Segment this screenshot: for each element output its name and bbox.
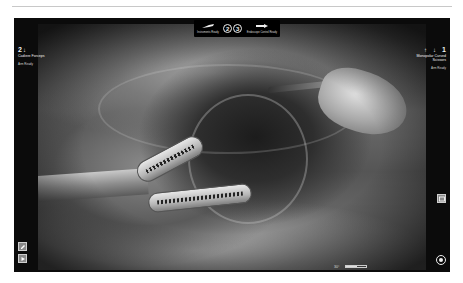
left-arm-number: 2	[18, 46, 22, 53]
instrument-icon	[201, 23, 215, 30]
right-arm-arrow: ↓	[433, 47, 436, 53]
left-arm-number-row: 2 ↓	[18, 46, 48, 53]
instruments-status[interactable]: Instruments Ready	[197, 23, 219, 34]
arm-indicator-3[interactable]: 3	[233, 24, 242, 33]
arrow-up-icon: ↑	[424, 47, 427, 53]
right-arm-number-row: ↑ ↓ 1	[412, 46, 446, 53]
energy-level-bar	[345, 265, 367, 268]
camera-button[interactable]	[436, 255, 446, 265]
left-instrument-name: Cadiere Forceps	[18, 54, 48, 58]
left-arm-status: Arm Ready	[18, 62, 48, 66]
console-display: Instruments Ready 2 3 Endoscope Control …	[14, 18, 450, 272]
endoscope-status[interactable]: Endoscope Control Ready	[247, 23, 277, 34]
annotate-button[interactable]	[18, 242, 27, 251]
camera-view-icon	[439, 196, 445, 202]
instruments-status-label: Instruments Ready	[197, 31, 219, 34]
pencil-icon	[20, 244, 26, 250]
top-status-bar: Instruments Ready 2 3 Endoscope Control …	[194, 20, 280, 37]
play-button[interactable]	[18, 254, 27, 263]
camera-view-button[interactable]	[437, 194, 446, 203]
page: Instruments Ready 2 3 Endoscope Control …	[0, 0, 463, 283]
energy-level-fill	[346, 266, 357, 267]
scope-angle-label: 30°	[334, 265, 339, 269]
energy-indicator	[345, 265, 367, 268]
arm-indicator-2[interactable]: 2	[223, 24, 232, 33]
top-divider	[12, 6, 452, 7]
left-arm-panel[interactable]: 2 ↓ Cadiere Forceps Arm Ready	[18, 46, 48, 66]
bottom-status-bar: 30°	[334, 262, 438, 271]
video-vignette	[38, 24, 426, 270]
arrow-down-icon: ↓	[23, 47, 26, 53]
endoscope-video-feed	[38, 24, 426, 270]
endoscope-icon	[255, 23, 269, 30]
right-arm-status: Arm Ready	[412, 66, 446, 70]
right-arm-panel[interactable]: ↑ ↓ 1 Monopolar Curved Scissors Arm Read…	[412, 46, 446, 70]
right-instrument-name: Monopolar Curved Scissors	[412, 54, 446, 62]
endoscope-status-label: Endoscope Control Ready	[247, 31, 277, 34]
arm-indicators: 2 3	[223, 24, 242, 33]
play-icon	[20, 256, 26, 262]
right-arm-number: 1	[442, 46, 446, 53]
